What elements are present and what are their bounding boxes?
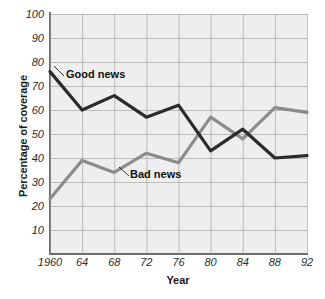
annotation-leaders: [54, 66, 129, 176]
gridlines: [50, 14, 308, 254]
series-label-good-news: Good news: [66, 68, 125, 80]
x-tick-label: 72: [140, 256, 152, 268]
x-tick-label: 84: [237, 256, 249, 268]
x-tick-label: 92: [301, 256, 313, 268]
leader-line-good-news: [54, 66, 64, 76]
x-tick-label: 88: [269, 256, 281, 268]
x-tick-label: 1960: [38, 256, 62, 268]
x-tick-label: 68: [108, 256, 120, 268]
chart-container: Percentage of coverage 10203040506070809…: [0, 0, 325, 299]
x-axis-title: Year: [48, 274, 308, 286]
x-tick-label: 76: [172, 256, 184, 268]
x-tick-label: 80: [205, 256, 217, 268]
x-tick-label: 64: [76, 256, 88, 268]
plot-graphics: [0, 0, 325, 299]
series-label-bad-news: Bad news: [130, 168, 181, 180]
